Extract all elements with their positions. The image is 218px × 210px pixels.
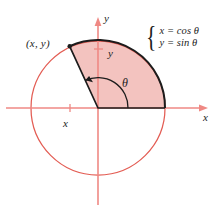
equation-rows: x = cos θ y = sin θ (159, 25, 199, 48)
brace-glyph: { (146, 24, 156, 49)
unit-circle-figure: (x, y) y x y x θ { x = cos θ y = sin θ (0, 0, 218, 210)
y-axis-arrow-icon (95, 17, 102, 26)
point-marker (68, 44, 72, 48)
equation-x: x = cos θ (159, 25, 199, 36)
y-axis-label: y (104, 13, 109, 24)
x-value-label: x (63, 118, 68, 129)
parametric-equations: { x = cos θ y = sin θ (144, 24, 199, 49)
equation-y: y = sin θ (159, 37, 199, 48)
y-value-label: y (108, 48, 113, 59)
x-axis-label: x (203, 112, 208, 123)
theta-label: θ (122, 77, 128, 89)
point-label: (x, y) (26, 38, 50, 49)
